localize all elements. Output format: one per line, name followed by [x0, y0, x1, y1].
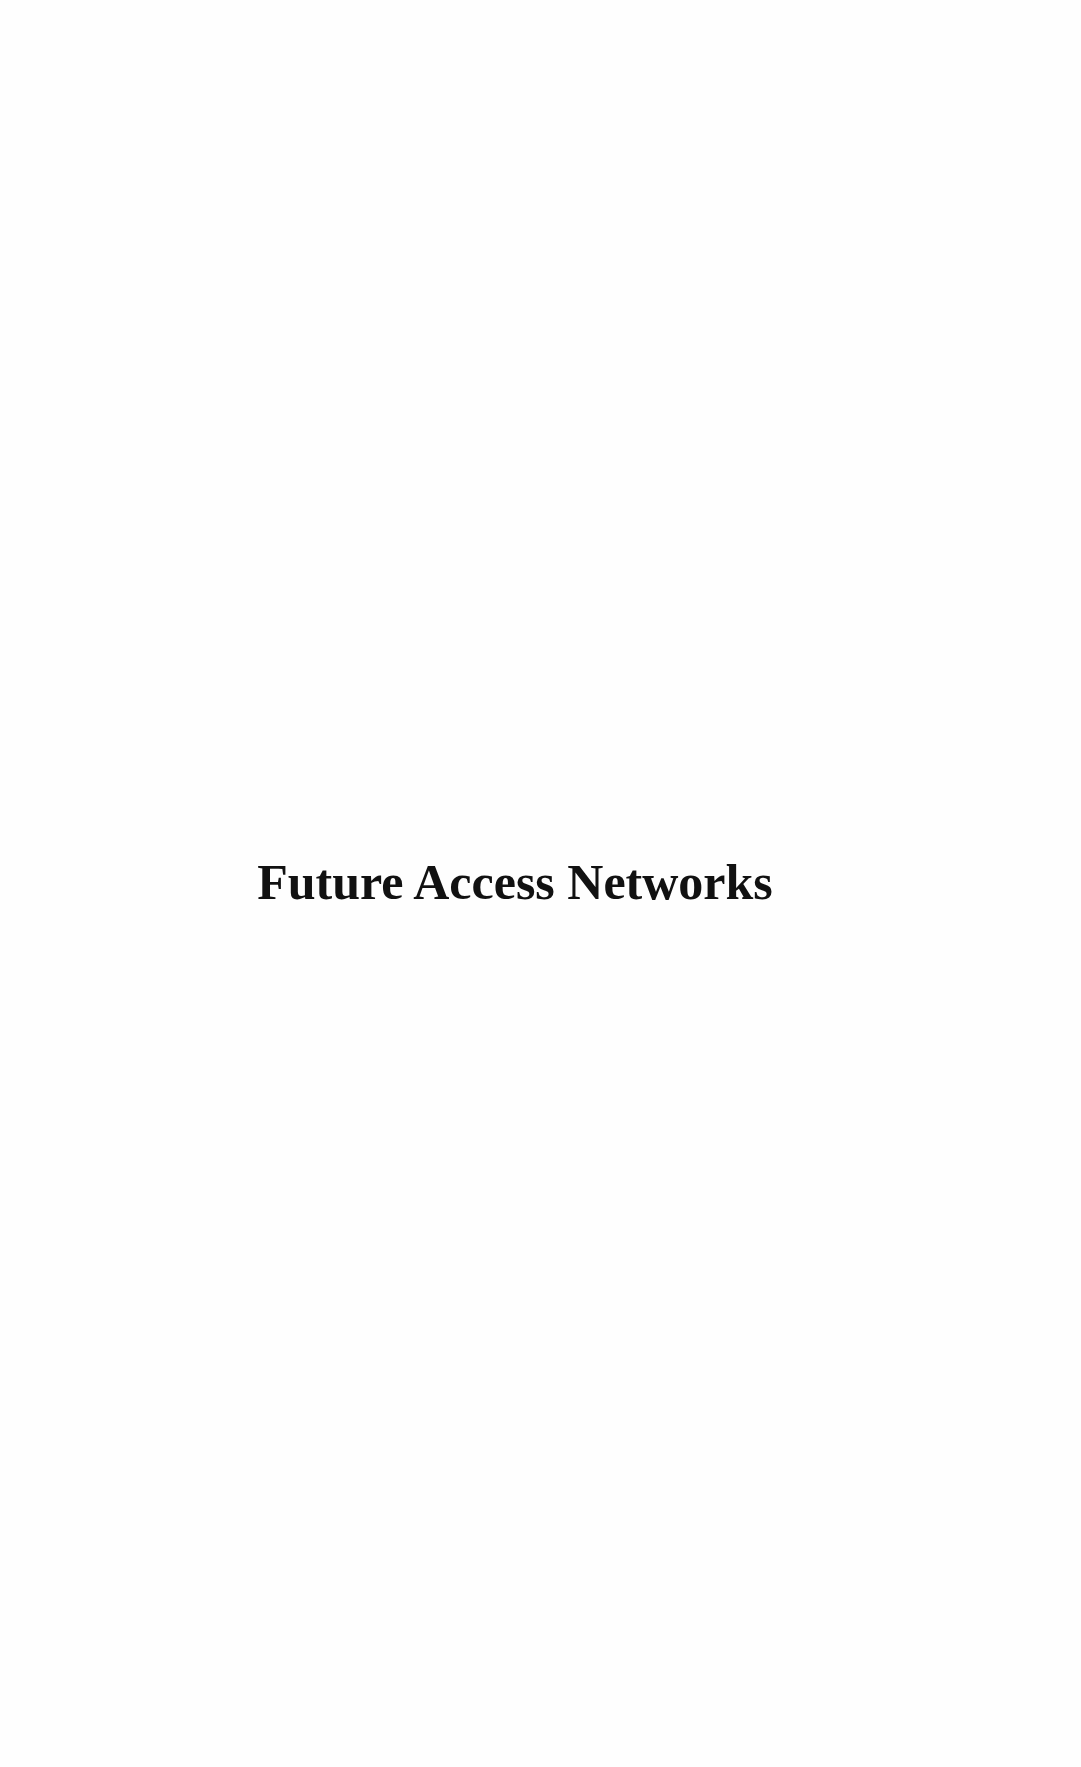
page-title: Future Access Networks [0, 852, 1030, 912]
document-page: Future Access Networks [0, 0, 1081, 1767]
